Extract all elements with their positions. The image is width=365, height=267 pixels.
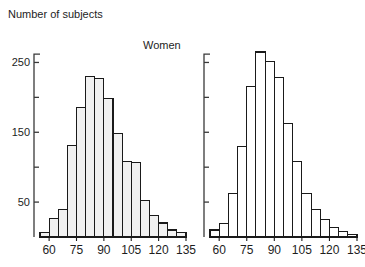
histogram-figure: Number of subjects Women 501502506075901… [0, 0, 365, 267]
histogram-bar [177, 233, 186, 237]
x-tick-label: 60 [204, 244, 234, 257]
y-axis-spine [34, 54, 40, 237]
x-tick-label: 90 [259, 244, 289, 257]
histogram-bar [95, 79, 104, 237]
x-tick-label: 105 [287, 244, 317, 257]
histogram-bar [247, 87, 256, 237]
histogram-bar [339, 231, 348, 237]
x-tick-label: 75 [232, 244, 262, 257]
histogram-bar [311, 209, 320, 237]
histogram-bar [58, 210, 67, 237]
men-histogram [190, 0, 365, 267]
panel-men: Men 607590105120135 [190, 0, 365, 267]
histogram-bar [122, 162, 131, 237]
histogram-bar [210, 230, 219, 237]
histogram-bar [67, 146, 76, 237]
x-tick-label: 75 [62, 244, 92, 257]
histogram-bar [256, 52, 265, 237]
histogram-bar [150, 215, 159, 237]
histogram-bar [348, 235, 357, 237]
x-tick-label: 60 [34, 244, 64, 257]
histogram-bar [238, 146, 247, 237]
x-tick-label: 135 [342, 244, 365, 257]
histogram-bar [293, 162, 302, 237]
histogram-bar [104, 98, 113, 237]
histogram-bar [219, 224, 228, 237]
women-histogram [0, 0, 196, 267]
histogram-bar [86, 76, 95, 237]
histogram-bar [329, 227, 338, 237]
histogram-bar [228, 194, 237, 237]
histogram-bar [113, 134, 122, 237]
histogram-bar [265, 61, 274, 237]
x-tick-label: 105 [116, 244, 146, 257]
histogram-bar [274, 78, 283, 237]
histogram-bar [131, 162, 140, 237]
histogram-bar [284, 123, 293, 237]
histogram-bar [77, 107, 86, 237]
histogram-bar [40, 233, 49, 237]
histogram-bar [49, 218, 58, 237]
histogram-bar [140, 201, 149, 237]
x-tick-label: 90 [89, 244, 119, 257]
panel-women: Women 50150250607590105120135 [0, 0, 196, 267]
histogram-bar [168, 230, 177, 237]
histogram-bar [320, 220, 329, 237]
x-tick-label: 120 [144, 244, 174, 257]
x-tick-label: 120 [314, 244, 344, 257]
histogram-bar [159, 223, 168, 237]
histogram-bar [302, 194, 311, 237]
y-axis-spine [204, 54, 210, 237]
